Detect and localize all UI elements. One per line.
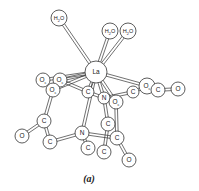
atom-c8: C	[110, 131, 124, 145]
atom-oc3: Oc	[46, 83, 60, 97]
atom-o3: O	[122, 153, 136, 167]
atom-label: O	[19, 132, 24, 139]
atom-c1: C	[82, 86, 94, 98]
atom-label: C	[42, 117, 47, 124]
atom-n2: N	[75, 126, 89, 140]
atom-label: N	[102, 94, 107, 101]
atom-c3: C	[151, 83, 165, 97]
atom-c7: C	[101, 117, 115, 131]
atom-n1: N	[98, 92, 110, 104]
atom-w1: H2O	[51, 10, 67, 26]
atom-label: C	[115, 134, 120, 141]
atom-c9: C	[97, 145, 111, 159]
atom-c6: C	[81, 141, 95, 155]
atom-la: La	[85, 61, 107, 83]
atom-c5: C	[43, 135, 57, 149]
atom-label: O	[175, 85, 180, 92]
atom-label: C	[48, 138, 53, 145]
atom-w3: H2O	[120, 23, 136, 39]
atom-c2: C	[127, 86, 139, 98]
atom-label: N	[80, 129, 85, 136]
figure-caption: (a)	[78, 173, 100, 184]
atom-c4: C	[37, 114, 51, 128]
atom-label: O	[126, 156, 131, 163]
atom-label: C	[86, 88, 91, 95]
atom-o2: O	[15, 129, 29, 143]
atom-label: C	[86, 144, 91, 151]
atom-label: C	[156, 86, 161, 93]
molecular-structure-diagram: H2OH2OH2OLaOcOcOcCNOcCOcCOCOCNCCCCO	[0, 0, 199, 191]
atom-label: C	[106, 120, 111, 127]
atom-w2: H2O	[102, 23, 118, 39]
atom-label: C	[102, 148, 107, 155]
atom-oc4: Oc	[109, 95, 123, 109]
atom-o1: O	[171, 82, 185, 96]
atom-label: C	[131, 88, 136, 95]
atom-label: La	[92, 68, 100, 75]
